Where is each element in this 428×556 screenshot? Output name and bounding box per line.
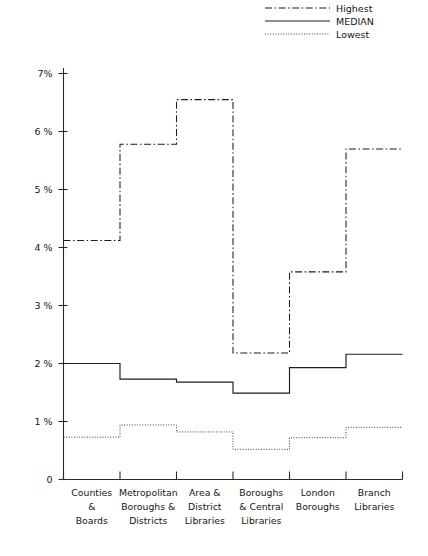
step-chart: Highest MEDIAN Lowest 7%6 %5 %4 %3 %2 %1… [0,0,428,556]
legend-entry-median: MEDIAN [265,16,374,27]
legend-entry-highest: Highest [265,3,373,14]
y-axis-tick-label: 3 % [34,300,52,311]
y-axis-tick-label: 5 % [34,184,52,195]
x-axis-category-label: LondonBoroughs [296,487,340,512]
legend-label-median: MEDIAN [336,16,374,27]
chart-container: Highest MEDIAN Lowest 7%6 %5 %4 %3 %2 %1… [0,0,428,556]
x-axis-category-label: BranchLibraries [354,487,394,512]
x-axis-category-label: Area &DistrictLibraries [185,487,225,526]
x-axis-ticks [64,472,403,480]
y-axis-tick-label: 0 [46,474,52,485]
x-axis-category-label: Counties&Boards [71,487,112,526]
y-axis-tick-label: 6 % [34,126,52,137]
legend-label-highest: Highest [336,3,373,14]
x-axis: Counties&BoardsMetropolitanBoroughs &Dis… [64,472,403,527]
y-axis-tick-label: 4 % [34,242,52,253]
y-axis-tick-label: 1 % [34,416,52,427]
legend-label-lowest: Lowest [336,29,370,40]
x-axis-category-label: MetropolitanBoroughs &Districts [119,487,178,526]
y-axis: 7%6 %5 %4 %3 %2 %1 %0 [34,68,67,485]
x-axis-category-label: Boroughs& CentralLibraries [239,487,283,526]
y-axis-tick-label: 7% [37,68,52,79]
chart-legend: Highest MEDIAN Lowest [265,3,374,40]
series-line-highest [64,100,403,353]
y-axis-tick-labels: 7%6 %5 %4 %3 %2 %1 %0 [34,68,52,485]
series-line-lowest [64,425,403,449]
legend-entry-lowest: Lowest [265,29,370,40]
series-group [64,100,403,450]
y-axis-tick-label: 2 % [34,358,52,369]
x-axis-category-labels: Counties&BoardsMetropolitanBoroughs &Dis… [71,487,394,526]
series-line-median [64,354,403,393]
